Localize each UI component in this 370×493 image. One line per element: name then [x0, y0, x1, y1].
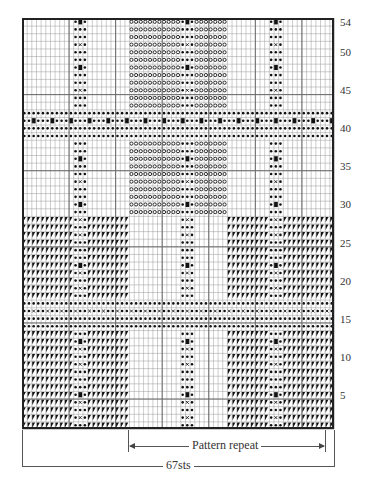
repeat-arrow-right: [319, 443, 325, 449]
row-label: 54: [340, 17, 351, 28]
repeat-arrow-left: [129, 443, 135, 449]
stitch-count-label: 67sts: [163, 458, 194, 473]
row-label: 40: [340, 123, 351, 134]
knitting-chart-grid: [22, 18, 335, 430]
row-label: 15: [340, 314, 351, 325]
row-label: 20: [340, 276, 351, 287]
row-label: 45: [340, 85, 351, 96]
row-label: 10: [340, 352, 351, 363]
repeat-end-tick: [325, 430, 326, 452]
row-label: 35: [340, 161, 351, 172]
row-label: 30: [340, 199, 351, 210]
pattern-repeat-label: Pattern repeat: [189, 438, 261, 453]
row-label: 25: [340, 238, 351, 249]
row-label: 50: [340, 47, 351, 58]
left-dimension-tick: [22, 430, 23, 467]
right-dimension-tick: [334, 430, 335, 467]
row-label: 5: [340, 390, 346, 401]
